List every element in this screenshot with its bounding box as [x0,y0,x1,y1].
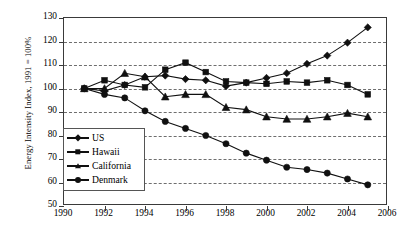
data-point-marker [203,132,209,138]
data-point-marker [263,74,270,81]
data-point-marker [284,79,290,85]
data-point-marker [345,82,351,88]
legend-label: US [89,133,104,143]
triangle-marker-icon [67,160,89,172]
data-point-marker [222,104,230,111]
diamond-marker-icon [67,132,89,144]
data-point-marker [202,77,209,84]
chart-legend: US Hawaii California Denmark [63,128,145,191]
y-axis-tick-label: 80 [27,130,57,139]
data-point-marker [81,85,87,91]
square-marker-icon [67,146,89,158]
x-axis-tick-label: 1994 [124,209,164,218]
data-point-marker [182,76,189,83]
data-point-marker [183,60,189,66]
data-point-marker [122,82,128,88]
data-point-marker [142,85,148,91]
data-point-marker [243,150,249,156]
data-point-marker [121,69,129,76]
data-point-marker [102,77,108,83]
legend-label: Hawaii [89,147,120,157]
data-point-marker [263,113,271,120]
x-axis-tick [186,206,187,211]
data-point-marker [243,80,249,86]
y-axis-tick-label: 90 [27,106,57,115]
x-axis-tick [226,206,227,211]
data-point-marker [101,91,107,97]
data-point-marker [324,52,331,59]
y-axis-tick-label: 60 [27,177,57,186]
x-axis-tick-label: 1992 [84,209,124,218]
data-point-marker [182,125,188,131]
x-axis-tick [388,206,389,211]
data-point-marker [303,60,310,67]
x-axis-tick-label: 2004 [327,209,367,218]
y-axis-title: Energy Intensity Index, 1991 = 100% [23,3,33,203]
x-axis-tick-label: 2006 [367,209,407,218]
legend-item-denmark[interactable]: Denmark [67,173,141,187]
y-axis-tick-label: 130 [27,12,57,21]
data-point-marker [324,77,330,83]
data-point-marker [223,141,229,147]
legend-label: Denmark [89,175,128,185]
legend-item-hawaii[interactable]: Hawaii [67,145,141,159]
series-hawaii [81,60,370,97]
legend-label: California [89,161,131,171]
chart-figure: Energy Intensity Index, 1991 = 100% 5060… [0,0,409,238]
x-axis-tick [348,206,349,211]
y-axis-tick-label: 110 [27,59,57,68]
y-axis-tick-label: 50 [27,200,57,209]
data-point-marker [365,182,371,188]
data-point-marker [162,67,168,73]
circle-marker-icon [67,174,89,186]
x-axis-tick [105,206,106,211]
data-point-marker [304,80,310,86]
data-point-marker [324,170,330,176]
data-point-marker [344,176,350,182]
legend-item-us[interactable]: US [67,131,141,145]
legend-item-california[interactable]: California [67,159,141,173]
data-point-marker [142,108,148,114]
data-point-marker [162,72,169,79]
y-axis-tick [59,206,64,207]
data-point-marker [304,166,310,172]
data-point-marker [122,95,128,101]
data-point-marker [283,70,290,77]
x-axis-tick-label: 2000 [246,209,286,218]
x-axis-tick-label: 1998 [205,209,245,218]
data-point-marker [284,164,290,170]
x-axis-tick [267,206,268,211]
x-axis-tick-label: 2002 [286,209,326,218]
x-axis-tick-label: 1990 [43,209,83,218]
data-point-marker [203,69,209,75]
y-axis-tick-label: 100 [27,83,57,92]
x-axis-tick [307,206,308,211]
data-point-marker [263,157,269,163]
data-point-marker [223,79,229,85]
x-axis-tick [145,206,146,211]
data-point-marker [365,92,371,98]
y-axis-tick-label: 120 [27,36,57,45]
y-axis-tick-label: 70 [27,153,57,162]
data-point-marker [264,81,270,87]
data-point-marker [344,109,352,116]
data-point-marker [162,118,168,124]
x-axis-tick-label: 1996 [165,209,205,218]
